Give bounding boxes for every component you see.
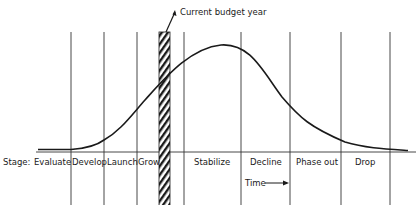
time-axis-label: Time (245, 178, 266, 188)
stage-launch: Launch (107, 157, 138, 167)
stage-develop: Develop (72, 157, 107, 167)
stage-prefix-label: Stage: (3, 157, 30, 167)
stage-dividers (71, 32, 390, 205)
stage-evaluate: Evaluate (34, 157, 71, 167)
stage-stabilize: Stabilize (194, 157, 230, 167)
stage-decline: Decline (250, 157, 282, 167)
callout-label: Current budget year (180, 7, 266, 17)
stage-drop: Drop (355, 157, 375, 167)
current-budget-year-band (159, 32, 170, 205)
stage-grow: Grow (138, 157, 160, 167)
stage-phase-out: Phase out (296, 157, 338, 167)
diagram-canvas (0, 0, 416, 205)
time-arrow-icon (283, 181, 289, 186)
callout-leader (166, 12, 175, 32)
life-cycle-curve (38, 45, 408, 151)
